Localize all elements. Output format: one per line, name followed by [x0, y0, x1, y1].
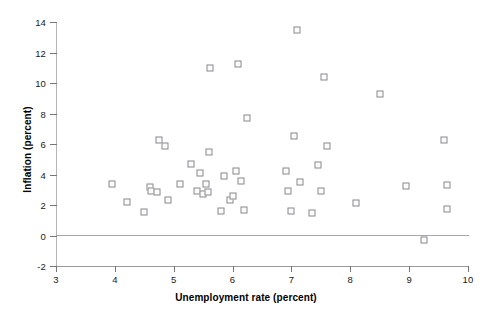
- data-point: [207, 64, 214, 71]
- y-tick-label: 12: [6, 47, 46, 58]
- data-point: [282, 167, 289, 174]
- data-point: [444, 205, 451, 212]
- x-tick-label: 6: [218, 274, 248, 285]
- y-tick-label: 14: [6, 17, 46, 28]
- data-point: [204, 189, 211, 196]
- data-point: [197, 169, 204, 176]
- x-tick-mark: [174, 266, 175, 272]
- data-point: [291, 133, 298, 140]
- x-tick-mark: [350, 266, 351, 272]
- y-tick-label: 6: [6, 139, 46, 150]
- x-tick-label: 10: [453, 274, 483, 285]
- data-point: [317, 187, 324, 194]
- data-point: [220, 173, 227, 180]
- y-tick-label: 0: [6, 230, 46, 241]
- data-point: [235, 60, 242, 67]
- data-point: [244, 115, 251, 122]
- data-point: [444, 182, 451, 189]
- y-tick-label: 10: [6, 78, 46, 89]
- data-point: [314, 162, 321, 169]
- data-point: [161, 142, 168, 149]
- data-point: [123, 198, 130, 205]
- x-tick-label: 8: [335, 274, 365, 285]
- x-tick-mark: [115, 266, 116, 272]
- data-point: [288, 208, 295, 215]
- x-tick-mark: [56, 266, 57, 272]
- y-tick-label: -2: [6, 261, 46, 272]
- x-tick-label: 5: [159, 274, 189, 285]
- data-point: [441, 137, 448, 144]
- data-point: [188, 160, 195, 167]
- y-tick-label: 8: [6, 108, 46, 119]
- data-point: [203, 181, 210, 188]
- data-point: [154, 189, 161, 196]
- data-point: [238, 177, 245, 184]
- data-point: [241, 207, 248, 214]
- data-point: [323, 143, 330, 150]
- data-point: [229, 192, 236, 199]
- x-tick-mark: [291, 266, 292, 272]
- data-point: [294, 26, 301, 33]
- y-tick-label: 4: [6, 169, 46, 180]
- data-point: [164, 196, 171, 203]
- x-axis-line: [56, 266, 469, 267]
- x-tick-label: 4: [100, 274, 130, 285]
- scatter-plot-figure: Inflation (percent) -202468101214 345678…: [0, 0, 492, 322]
- y-tick-label: 2: [6, 200, 46, 211]
- data-point: [297, 179, 304, 186]
- x-tick-mark: [233, 266, 234, 272]
- data-point: [353, 199, 360, 206]
- data-point: [403, 182, 410, 189]
- data-point: [232, 167, 239, 174]
- plot-area: [56, 22, 468, 266]
- x-tick-label: 3: [41, 274, 71, 285]
- data-point: [285, 187, 292, 194]
- data-point: [108, 180, 115, 187]
- data-point: [206, 148, 213, 155]
- x-axis-title: Unemployment rate (percent): [0, 292, 492, 303]
- x-tick-label: 7: [276, 274, 306, 285]
- x-tick-mark: [468, 266, 469, 272]
- data-point: [376, 91, 383, 98]
- data-point: [217, 208, 224, 215]
- data-point: [420, 237, 427, 244]
- data-point: [320, 73, 327, 80]
- data-point: [141, 208, 148, 215]
- data-point: [176, 180, 183, 187]
- x-tick-mark: [409, 266, 410, 272]
- data-point: [309, 210, 316, 217]
- x-tick-label: 9: [394, 274, 424, 285]
